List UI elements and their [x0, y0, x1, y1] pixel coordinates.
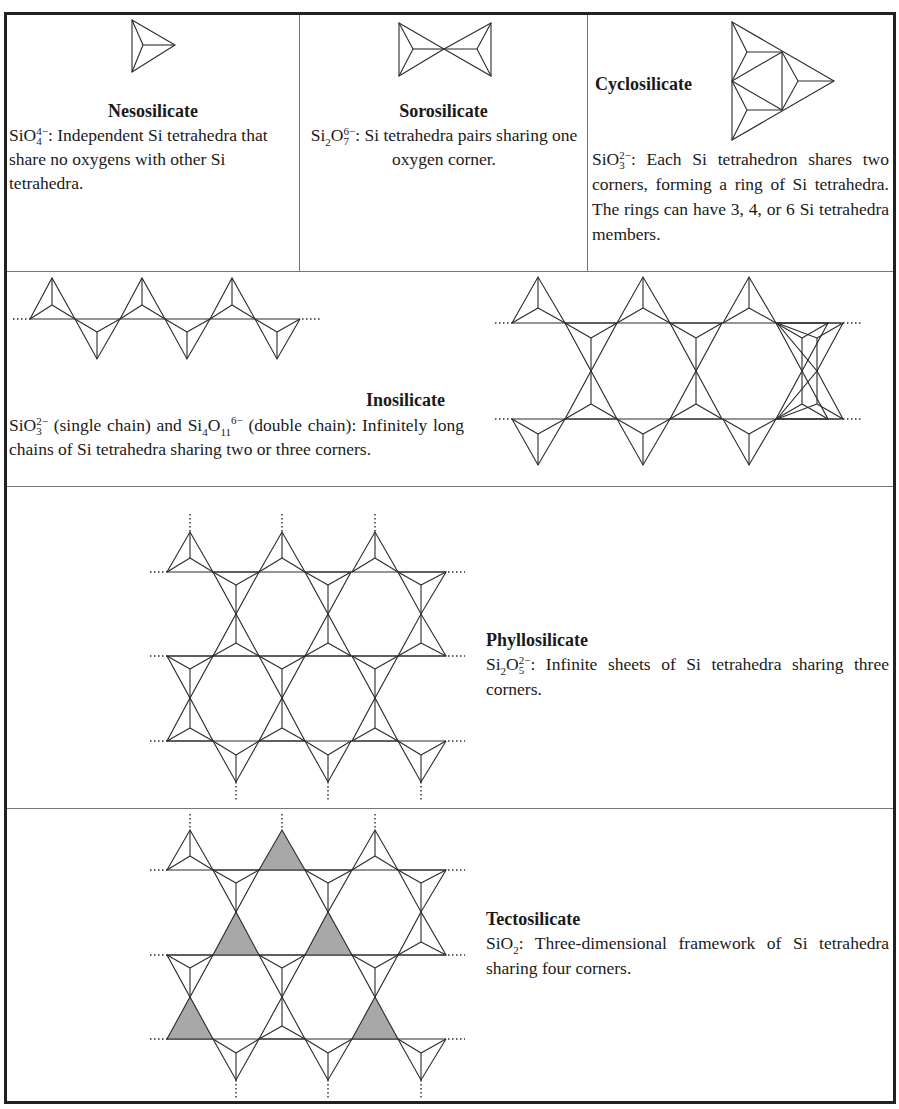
phyllosilicate-description: Si2O2−5: Infinite sheets of Si tetrahedr… [486, 652, 889, 702]
nesosilicate-title: Nesosilicate [7, 99, 299, 123]
sorosilicate-formula: Si2O6−7 [311, 125, 355, 145]
sorosilicate-title: Sorosilicate [300, 99, 587, 123]
tectosilicate-title: Tectosilicate [486, 907, 580, 931]
col-divider-1 [299, 15, 300, 271]
nesosilicate-description: SiO4−4: Independent Si tetrahedra that s… [9, 123, 297, 195]
phyllosilicate-formula: Si2O2−5 [486, 654, 530, 674]
inosilicate-single-formula: SiO2−3 [9, 415, 48, 435]
nesosilicate-formula: SiO4−4 [9, 125, 48, 145]
ring-tetrahedra-icon [730, 20, 838, 144]
inosilicate-title: Inosilicate [366, 388, 445, 412]
cyclosilicate-title: Cyclosilicate [595, 72, 692, 96]
inosilicate-description: SiO2−3 (single chain) and Si4O116− (doub… [9, 413, 464, 461]
col-divider-2 [587, 15, 588, 271]
cyclosilicate-formula: SiO2−3 [592, 149, 631, 169]
phyllosilicate-title: Phyllosilicate [486, 628, 588, 652]
single-tetrahedron-icon [130, 18, 180, 78]
tectosilicate-formula: SiO2 [486, 933, 519, 953]
framework-tetrahedra-icon [150, 812, 450, 1102]
sheet-tetrahedra-icon [150, 512, 450, 802]
row-divider-3 [7, 808, 893, 809]
double-tetrahedron-icon [397, 22, 493, 80]
row-divider-1 [7, 271, 893, 272]
sorosilicate-description: Si2O6−7: Si tetrahedra pairs sharing one… [305, 123, 583, 171]
tectosilicate-description: SiO2: Three-dimensional framework of Si … [486, 931, 889, 981]
single-chain-icon [10, 275, 320, 365]
double-chain-icon [495, 275, 875, 475]
cyclosilicate-description: SiO2−3: Each Si tetrahedron shares two c… [592, 147, 889, 247]
inosilicate-double-formula: Si4O116− [188, 415, 243, 435]
row-divider-2 [7, 486, 893, 487]
